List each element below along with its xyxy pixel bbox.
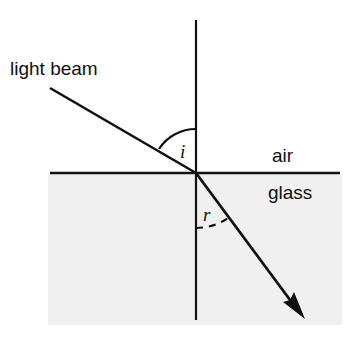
glass-label: glass [268,182,312,203]
incident-ray-line [50,88,196,173]
air-label: air [272,145,294,166]
light-beam-label: light beam [10,58,98,79]
refraction-diagram: light beam air glass i r [0,0,356,349]
angle-of-refraction-label: r [203,204,211,225]
angle-of-incidence-arc [159,129,196,149]
refraction-figure: light beam air glass i r [0,0,356,349]
angle-of-incidence-label: i [180,141,185,162]
